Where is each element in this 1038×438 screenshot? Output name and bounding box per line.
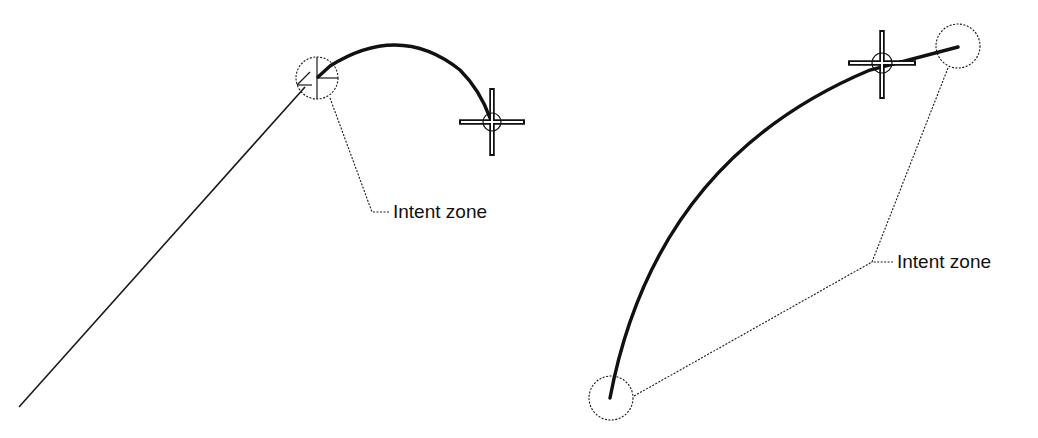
leader-line-lower: [634, 262, 872, 396]
left-diagram: [19, 45, 525, 407]
right-diagram: [589, 24, 980, 420]
intent-zone-label-right: Intent zone: [897, 252, 991, 271]
diagram-canvas: [0, 0, 1038, 438]
arc-segment: [318, 45, 490, 118]
crosshair-cursor-icon: [459, 88, 525, 156]
arc-segment: [610, 47, 958, 398]
leader-line: [330, 98, 390, 212]
crosshair-cursor-icon: [848, 30, 916, 99]
line-segment: [19, 87, 305, 407]
intent-zone-label-left: Intent zone: [393, 202, 487, 221]
